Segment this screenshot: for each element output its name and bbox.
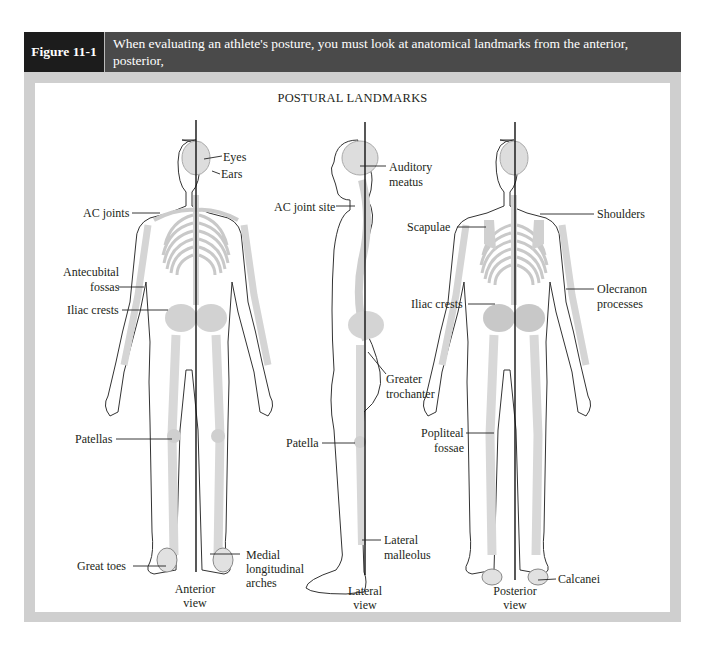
label-eyes: Eyes bbox=[223, 150, 246, 164]
view-label-line-2: view bbox=[165, 596, 225, 610]
label-olecranon-2: processes bbox=[597, 297, 643, 311]
label-iliac-crests-anterior: Iliac crests bbox=[67, 303, 119, 317]
label-popliteal-2: fossae bbox=[434, 441, 464, 455]
label-medial-1: Medial bbox=[246, 548, 280, 562]
label-ac-joint-site: AC joint site bbox=[274, 200, 335, 214]
view-label-line-1: Anterior bbox=[165, 582, 225, 596]
label-shoulders: Shoulders bbox=[597, 207, 645, 221]
skeleton-illustrations bbox=[0, 0, 712, 650]
label-auditory-1: Auditory bbox=[389, 160, 432, 174]
label-patellas: Patellas bbox=[75, 432, 112, 446]
label-greater-2: trochanter bbox=[386, 387, 435, 401]
label-calcanei: Calcanei bbox=[558, 572, 600, 586]
posterior-figure bbox=[423, 122, 590, 585]
lateral-view-label: Lateral view bbox=[335, 584, 395, 612]
label-patella: Patella bbox=[286, 436, 319, 450]
view-label-line-2: view bbox=[335, 598, 395, 612]
label-auditory-2: meatus bbox=[389, 175, 423, 189]
label-great-toes: Great toes bbox=[77, 559, 126, 573]
label-malleolus-2: malleolus bbox=[384, 548, 431, 562]
label-ac-joints: AC joints bbox=[83, 206, 129, 220]
view-label-line-2: view bbox=[480, 598, 550, 612]
label-malleolus-1: Lateral bbox=[384, 533, 418, 547]
label-iliac-crests-posterior: Iliac crests bbox=[411, 297, 463, 311]
label-olecranon-1: Olecranon bbox=[597, 282, 647, 296]
label-scapulae: Scapulae bbox=[407, 220, 450, 234]
view-label-line-1: Posterior bbox=[480, 584, 550, 598]
label-antecubital-1: Antecubital bbox=[63, 265, 119, 279]
label-ears: Ears bbox=[221, 167, 242, 181]
lateral-figure bbox=[306, 122, 384, 594]
label-antecubital-2: fossas bbox=[90, 280, 119, 294]
anterior-view-label: Anterior view bbox=[165, 582, 225, 610]
view-label-line-1: Lateral bbox=[335, 584, 395, 598]
anterior-figure bbox=[105, 120, 272, 574]
label-greater-1: Greater bbox=[386, 372, 422, 386]
posterior-view-label: Posterior view bbox=[480, 584, 550, 612]
label-popliteal-1: Popliteal bbox=[421, 426, 464, 440]
label-medial-3: arches bbox=[246, 576, 277, 590]
label-medial-2: longitudinal bbox=[246, 562, 304, 576]
